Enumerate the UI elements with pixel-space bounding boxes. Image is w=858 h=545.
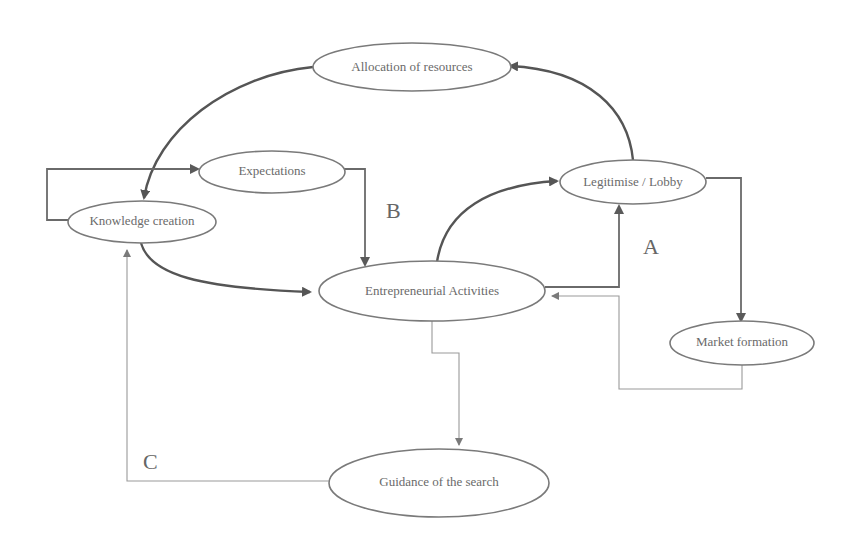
loop-label-c: C bbox=[143, 449, 158, 474]
edge-entrepreneurial-to-legitimise-b bbox=[437, 181, 557, 262]
loop-label-a: A bbox=[643, 234, 659, 259]
node-allocation-of-resources: Allocation of resources bbox=[313, 43, 511, 91]
node-label: Market formation bbox=[696, 334, 789, 349]
node-label: Allocation of resources bbox=[351, 59, 472, 74]
node-expectations: Expectations bbox=[199, 151, 345, 193]
node-entrepreneurial-activities: Entrepreneurial Activities bbox=[319, 261, 545, 321]
edge-legitimise-to-allocation bbox=[510, 66, 633, 160]
node-label: Guidance of the search bbox=[379, 474, 499, 489]
edge-entrepreneurial-to-guidance bbox=[432, 320, 459, 445]
innovation-system-diagram: Allocation of resources Expectations Kno… bbox=[0, 0, 858, 545]
node-label: Legitimise / Lobby bbox=[583, 174, 683, 189]
node-label: Knowledge creation bbox=[89, 213, 195, 228]
edge-legitimise-to-market bbox=[706, 178, 741, 321]
node-label: Entrepreneurial Activities bbox=[365, 283, 499, 298]
loop-label-b: B bbox=[386, 198, 401, 223]
edge-knowledge-to-entrepreneurial bbox=[141, 243, 310, 292]
edge-entrepreneurial-to-legitimise-a bbox=[545, 206, 619, 287]
node-label: Expectations bbox=[238, 163, 305, 178]
node-knowledge-creation: Knowledge creation bbox=[68, 201, 216, 243]
node-legitimise-lobby: Legitimise / Lobby bbox=[560, 160, 706, 204]
node-market-formation: Market formation bbox=[670, 321, 814, 365]
node-guidance-of-the-search: Guidance of the search bbox=[329, 449, 549, 517]
edge-expectations-to-entrepreneurial bbox=[343, 169, 365, 265]
